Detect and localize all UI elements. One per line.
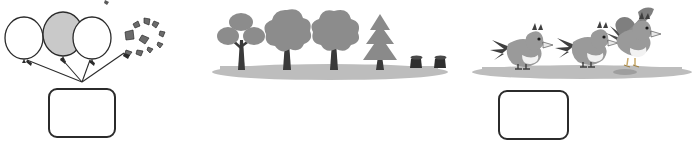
tree-3-icon — [311, 10, 359, 70]
tree-2-icon — [264, 9, 311, 70]
balloon-illustration — [0, 0, 232, 88]
balloon-fragment-stray-icon — [104, 0, 109, 5]
problem-birds — [470, 0, 697, 152]
tree-1-icon — [217, 13, 265, 70]
problem-trees — [210, 0, 460, 152]
stump-1-icon — [410, 56, 423, 69]
balloon-scene — [0, 0, 232, 88]
tree-illustration — [210, 0, 460, 88]
balloon-3-icon — [73, 17, 111, 63]
tree-4-conifer-icon — [363, 14, 397, 70]
balloon-1-icon — [5, 17, 43, 63]
stump-2-icon — [434, 56, 447, 69]
bird-2-perched-icon — [555, 21, 618, 67]
answer-box-balloons[interactable] — [48, 88, 116, 138]
balloon-pointer-arrows — [27, 53, 124, 82]
bird-1-perched-icon — [490, 23, 553, 69]
answer-value-balloons — [50, 90, 114, 136]
worksheet-page — [0, 0, 697, 152]
balloon-popped-burst-icon — [125, 18, 165, 56]
bird-illustration — [470, 0, 697, 88]
bird-3-flying-icon — [606, 8, 661, 67]
bird-scene — [470, 0, 697, 88]
problem-balloons — [0, 0, 232, 152]
tree-scene — [210, 0, 460, 88]
